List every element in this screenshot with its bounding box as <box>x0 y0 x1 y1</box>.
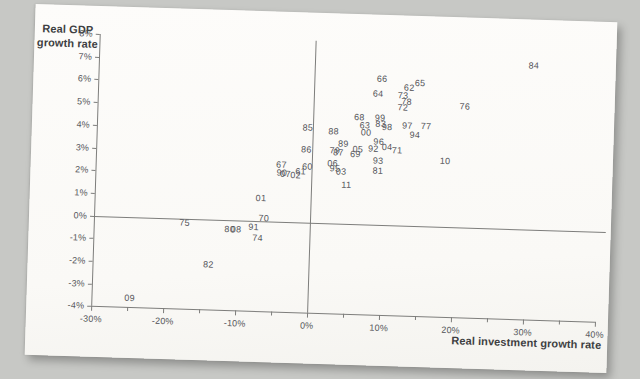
x-tick-label-20: 20% <box>441 325 460 336</box>
y-tick-label-5: 5% <box>77 96 91 106</box>
paper-page: Real GDP growth rate Real investment gro… <box>25 4 618 373</box>
x-tick--20 <box>163 308 164 313</box>
x-tick-label-30: 30% <box>513 328 532 339</box>
data-point-year-01: 01 <box>256 193 267 203</box>
x-tick-40 <box>595 322 596 327</box>
x-minor-tick--5 <box>271 312 272 316</box>
y-tick-2 <box>91 170 95 171</box>
data-point-year-85: 85 <box>302 123 313 133</box>
x-minor-tick-25 <box>487 319 488 323</box>
data-point-year-81: 81 <box>372 166 383 176</box>
x-tick-0 <box>307 313 308 318</box>
zero-investment-growth-line <box>307 41 317 313</box>
x-minor-tick-5 <box>343 314 344 318</box>
y-tick-1 <box>91 193 95 194</box>
data-point-year-64: 64 <box>373 89 384 99</box>
gdp-vs-investment-scatter-chart: Real GDP growth rate Real investment gro… <box>25 4 618 373</box>
data-point-year-10: 10 <box>440 155 451 165</box>
x-minor-tick--25 <box>127 307 128 311</box>
x-tick-30 <box>523 320 524 325</box>
x-tick-label-10: 10% <box>369 323 388 334</box>
data-point-year-05: 05 <box>353 144 364 154</box>
x-tick--10 <box>235 311 236 316</box>
x-tick-label--20: -20% <box>152 316 174 327</box>
y-tick-label-3: 3% <box>76 142 90 152</box>
data-point-year-99: 99 <box>375 113 386 123</box>
data-point-year-68: 68 <box>354 112 365 122</box>
y-tick-5 <box>94 102 98 103</box>
y-tick-label-1: 1% <box>74 187 88 197</box>
data-point-year-02: 02 <box>290 170 301 180</box>
y-tick-label--2: -2% <box>69 255 86 266</box>
x-tick-label--30: -30% <box>80 314 102 325</box>
data-point-year-66: 66 <box>377 74 388 84</box>
y-tick-label--3: -3% <box>68 278 85 289</box>
x-minor-tick--15 <box>199 310 200 314</box>
y-tick-0 <box>90 215 94 216</box>
x-tick-label-0: 0% <box>300 321 314 331</box>
y-tick-label-7: 7% <box>78 51 92 61</box>
data-point-year-74: 74 <box>252 232 263 242</box>
y-tick-label-4: 4% <box>76 119 90 129</box>
x-tick--30 <box>91 306 92 311</box>
data-point-year-70: 70 <box>258 213 269 223</box>
y-tick-label--4: -4% <box>67 300 84 311</box>
y-tick-3 <box>92 147 96 148</box>
y-tick-7 <box>95 57 99 58</box>
data-point-year-76: 76 <box>459 102 470 112</box>
data-point-year-65: 65 <box>415 77 426 87</box>
x-minor-tick-35 <box>559 321 560 325</box>
x-tick-label-40: 40% <box>585 330 604 341</box>
y-tick--1 <box>89 238 93 239</box>
data-point-year-75: 75 <box>179 218 190 228</box>
data-point-year-04: 04 <box>382 142 393 152</box>
x-tick-label--10: -10% <box>224 318 246 329</box>
y-tick-label-0: 0% <box>73 210 87 220</box>
data-point-year-98: 98 <box>382 122 393 132</box>
y-tick-label-2: 2% <box>75 164 89 174</box>
data-point-year-07: 07 <box>280 169 291 179</box>
data-point-year-84: 84 <box>528 61 539 71</box>
y-tick-6 <box>94 79 98 80</box>
y-tick-4 <box>93 125 97 126</box>
x-tick-10 <box>379 315 380 320</box>
plot-area: 8%7%6%5%4%3%2%1%0%-1%-2%-3%-4%-30%-20%-1… <box>36 4 618 22</box>
data-point-year-08: 08 <box>231 224 242 234</box>
x-tick-20 <box>451 318 452 323</box>
data-point-year-06: 06 <box>327 158 338 168</box>
data-point-year-88: 88 <box>328 126 339 136</box>
data-point-year-89: 89 <box>338 139 349 149</box>
scanned-document-scene: Real GDP growth rate Real investment gro… <box>0 0 640 379</box>
x-minor-tick-15 <box>415 316 416 320</box>
data-point-year-09: 09 <box>124 293 135 303</box>
y-tick--2 <box>89 261 93 262</box>
data-point-year-97: 97 <box>402 120 413 130</box>
y-tick--3 <box>88 283 92 284</box>
data-point-year-94: 94 <box>410 130 421 140</box>
zero-gdp-growth-line <box>94 215 606 232</box>
y-tick-label-6: 6% <box>78 74 92 84</box>
data-point-year-87: 87 <box>333 148 344 158</box>
data-point-year-93: 93 <box>373 156 384 166</box>
data-point-year-82: 82 <box>203 259 214 269</box>
data-point-year-78: 78 <box>401 96 412 106</box>
y-tick-8 <box>96 34 100 35</box>
y-tick-label-8: 8% <box>79 28 93 38</box>
data-point-year-86: 86 <box>301 144 312 154</box>
data-point-year-71: 71 <box>392 145 403 155</box>
data-point-year-91: 91 <box>248 222 259 232</box>
data-point-year-00: 00 <box>361 127 372 137</box>
y-tick-label--1: -1% <box>70 232 87 243</box>
data-point-year-77: 77 <box>421 121 432 131</box>
data-point-year-11: 11 <box>341 180 351 190</box>
